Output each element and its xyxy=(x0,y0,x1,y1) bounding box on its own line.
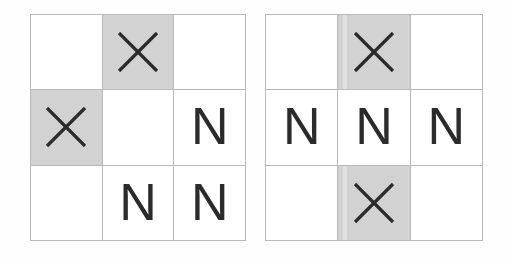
x-mark-icon xyxy=(116,30,160,74)
grid-cell-r2-c3[interactable]: N xyxy=(411,90,482,164)
left-grid: NNN xyxy=(30,14,246,241)
cell-symbol-label: N xyxy=(355,100,393,152)
grid-cell-r2-c2[interactable] xyxy=(103,90,174,164)
grid-cell-r3-c3[interactable]: N xyxy=(174,166,245,240)
x-mark-icon xyxy=(352,30,396,74)
grid-cell-r2-c1[interactable] xyxy=(31,90,102,164)
grid-cell-r3-c3[interactable] xyxy=(411,166,482,240)
grid-cell-r1-c3[interactable] xyxy=(174,15,245,89)
grid-cell-r2-c1[interactable]: N xyxy=(266,90,337,164)
grid-cell-r3-c2[interactable]: N xyxy=(103,166,174,240)
cell-symbol-label: N xyxy=(283,100,321,152)
cell-symbol-label: N xyxy=(119,176,157,228)
grid-cell-r1-c1[interactable] xyxy=(266,15,337,89)
right-grid: NNN xyxy=(265,14,483,241)
grid-cell-r1-c2[interactable] xyxy=(338,15,409,89)
grid-cell-r2-c3[interactable]: N xyxy=(174,90,245,164)
grid-cell-r3-c1[interactable] xyxy=(266,166,337,240)
cell-symbol-label: N xyxy=(428,100,466,152)
x-mark-icon xyxy=(352,181,396,225)
cell-symbol-label: N xyxy=(191,100,229,152)
grid-cell-r1-c3[interactable] xyxy=(411,15,482,89)
grid-cell-r3-c2[interactable] xyxy=(338,166,409,240)
grid-cell-r1-c1[interactable] xyxy=(31,15,102,89)
grid-cell-r3-c1[interactable] xyxy=(31,166,102,240)
grid-cell-r1-c2[interactable] xyxy=(103,15,174,89)
cell-symbol-label: N xyxy=(191,176,229,228)
grid-cell-r2-c2[interactable]: N xyxy=(338,90,409,164)
x-mark-icon xyxy=(44,105,88,149)
figure-canvas: NNN NNN xyxy=(0,0,512,258)
